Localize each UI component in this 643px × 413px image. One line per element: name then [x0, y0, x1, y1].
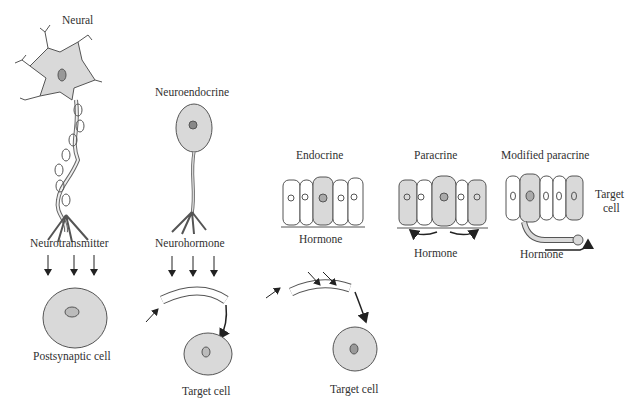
- modified-paracrine-epithelium-illustration: [506, 174, 588, 250]
- target-label-cell: cell: [603, 202, 620, 214]
- panel-title-neuroendocrine: Neuroendocrine: [155, 86, 229, 98]
- target-label-target-cell: Target cell: [330, 383, 378, 395]
- paracrine-epithelium-illustration: [397, 176, 488, 235]
- signal-label-hormone: Hormone: [299, 233, 342, 245]
- target-label-postsynaptic-cell: Postsynaptic cell: [33, 350, 111, 362]
- panel-title-paracrine: Paracrine: [414, 149, 457, 161]
- target-label-target: Target: [595, 188, 624, 200]
- panel-title-neural: Neural: [62, 14, 93, 26]
- neuron-illustration: [15, 25, 107, 348]
- panel-title-modified-paracrine: Modified paracrine: [501, 149, 589, 161]
- target-label-target-cell: Target cell: [182, 385, 230, 397]
- signal-label-hormone: Hormone: [520, 248, 563, 260]
- signal-label-neurohormone: Neurohormone: [155, 237, 225, 249]
- signal-label-neurotransmitter: Neurotransmitter: [30, 237, 109, 249]
- panel-title-endocrine: Endocrine: [296, 149, 343, 161]
- signal-label-hormone: Hormone: [414, 247, 457, 259]
- endocrine-epithelium-illustration: [266, 177, 377, 371]
